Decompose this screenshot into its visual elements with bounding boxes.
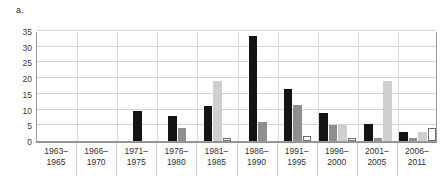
category-separator — [197, 32, 198, 141]
y-axis-tick: 25 — [23, 59, 32, 68]
x-axis-tick: 1991– 1995 — [277, 146, 317, 168]
x-axis-tick: 2006– 2011 — [397, 146, 437, 168]
x-label-separator — [196, 143, 197, 176]
bar — [249, 36, 258, 141]
y-axis-tick: 5 — [27, 122, 32, 131]
gridline — [37, 109, 436, 110]
x-label-separator — [156, 143, 157, 176]
x-label-separator — [397, 143, 398, 176]
gridline — [37, 46, 436, 47]
bar — [178, 128, 187, 141]
x-axis-tick: 1986– 1990 — [237, 146, 277, 168]
bar — [293, 105, 302, 141]
bar — [223, 138, 232, 141]
category-separator — [278, 32, 279, 141]
gridline — [37, 124, 436, 125]
bar — [319, 113, 328, 141]
bar — [168, 116, 177, 141]
x-axis-tick: 1971– 1975 — [116, 146, 156, 168]
x-axis-tick-labels: 1963– 19651966– 19701971– 19751976– 1980… — [36, 143, 437, 176]
bar — [258, 122, 267, 141]
category-separator — [157, 32, 158, 141]
plot-area — [36, 32, 437, 142]
x-label-separator — [237, 143, 238, 176]
bar — [428, 128, 437, 141]
bar — [399, 132, 408, 141]
bar — [418, 132, 427, 141]
gridline — [37, 77, 436, 78]
bar — [374, 138, 383, 141]
x-label-separator — [277, 143, 278, 176]
bar — [364, 124, 373, 141]
x-axis-tick: 1981– 1985 — [196, 146, 236, 168]
category-separator — [358, 32, 359, 141]
x-axis-tick: 1996– 2000 — [317, 146, 357, 168]
bar — [133, 111, 142, 141]
bar — [409, 138, 418, 141]
x-label-separator — [76, 143, 77, 176]
x-label-separator — [116, 143, 117, 176]
y-axis-tick: 20 — [23, 75, 32, 84]
y-axis-tick-labels: 05101520253035 — [0, 0, 36, 176]
gridline — [37, 93, 436, 94]
x-axis-tick: 1976– 1980 — [156, 146, 196, 168]
bar — [303, 136, 312, 141]
y-axis-tick: 10 — [23, 106, 32, 115]
bar — [383, 81, 392, 141]
bar — [213, 81, 222, 141]
bar — [284, 89, 293, 141]
y-axis-tick: 0 — [27, 138, 32, 147]
y-axis-tick: 35 — [23, 28, 32, 37]
x-axis-tick: 1966– 1970 — [76, 146, 116, 168]
x-label-separator — [357, 143, 358, 176]
category-separator — [398, 32, 399, 141]
gridline — [37, 61, 436, 62]
bar — [338, 125, 347, 141]
gridline — [37, 30, 436, 31]
bar-chart-figure: a. 05101520253035 1963– 19651966– 197019… — [0, 0, 442, 176]
x-axis-tick: 2001– 2005 — [357, 146, 397, 168]
bar — [204, 106, 213, 141]
bar — [329, 125, 338, 141]
bar — [348, 138, 357, 141]
category-separator — [117, 32, 118, 141]
x-axis-tick: 1963– 1965 — [36, 146, 76, 168]
category-separator — [77, 32, 78, 141]
y-axis-tick: 15 — [23, 91, 32, 100]
x-label-separator — [317, 143, 318, 176]
y-axis-tick: 30 — [23, 43, 32, 52]
category-separator — [238, 32, 239, 141]
